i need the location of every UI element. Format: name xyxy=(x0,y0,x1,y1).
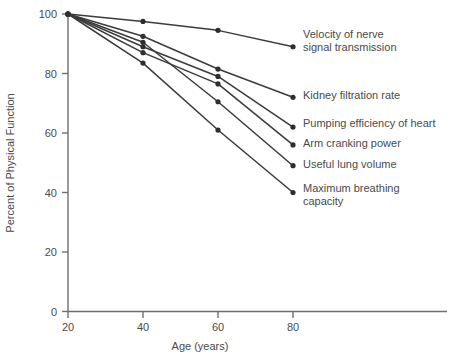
x-tick-label-60: 60 xyxy=(212,321,224,333)
data-point-velocity-of-nerve-signal-transmission-40 xyxy=(140,19,145,24)
x-tick-label-40: 40 xyxy=(137,321,149,333)
series-label-velocity-of-nerve-signal-transmission-line-1: Velocity of nerve xyxy=(303,28,384,40)
data-point-kidney-filtration-rate-40 xyxy=(140,34,145,39)
x-tick-label-80: 80 xyxy=(287,321,299,333)
series-label-kidney-filtration-rate: Kidney filtration rate xyxy=(303,89,400,101)
y-tick-label-40: 40 xyxy=(45,187,57,199)
x-tick-label-20: 20 xyxy=(62,321,74,333)
data-point-maximum-breathing-capacity-80 xyxy=(290,190,295,195)
data-point-kidney-filtration-rate-80 xyxy=(290,95,295,100)
y-axis-title: Percent of Physical Function xyxy=(4,93,16,232)
series-kidney-filtration-rate xyxy=(65,11,295,100)
data-point-useful-lung-volume-40 xyxy=(140,40,145,45)
series-maximum-breathing-capacity xyxy=(65,11,295,195)
series-label-maximum-breathing-capacity-line-1: Maximum breathing xyxy=(303,182,400,194)
series-line-maximum-breathing-capacity xyxy=(68,14,293,193)
chart-container: 100 80 60 40 20 0 20 40 60 80 Age (years… xyxy=(0,0,454,356)
data-point-kidney-filtration-rate-60 xyxy=(215,66,220,71)
data-point-maximum-breathing-capacity-20 xyxy=(65,11,70,16)
y-tick-label-0: 0 xyxy=(51,306,57,318)
data-point-useful-lung-volume-60 xyxy=(215,99,220,104)
series-label-velocity-of-nerve-signal-transmission-line-2: signal transmission xyxy=(303,41,397,53)
data-point-maximum-breathing-capacity-60 xyxy=(215,127,220,132)
series-label-arm-cranking-power: Arm cranking power xyxy=(303,137,401,149)
series-labels: Velocity of nerve signal transmission Ki… xyxy=(303,28,435,207)
series-layer xyxy=(65,11,295,195)
data-point-arm-cranking-power-80 xyxy=(290,142,295,147)
data-point-maximum-breathing-capacity-40 xyxy=(140,60,145,65)
data-point-useful-lung-volume-80 xyxy=(290,163,295,168)
series-line-arm-cranking-power xyxy=(68,14,293,145)
series-label-maximum-breathing-capacity-line-2: capacity xyxy=(303,195,344,207)
x-axis-title: Age (years) xyxy=(172,340,229,352)
data-point-pumping-efficiency-of-heart-80 xyxy=(290,124,295,129)
y-tick-label-60: 60 xyxy=(45,127,57,139)
line-chart: 100 80 60 40 20 0 20 40 60 80 Age (years… xyxy=(0,0,454,356)
y-axis-ticks xyxy=(62,14,68,312)
x-axis-ticks xyxy=(68,312,293,319)
data-point-velocity-of-nerve-signal-transmission-80 xyxy=(290,44,295,49)
data-point-pumping-efficiency-of-heart-60 xyxy=(215,74,220,79)
data-point-arm-cranking-power-40 xyxy=(140,50,145,55)
y-tick-label-80: 80 xyxy=(45,68,57,80)
series-line-velocity-of-nerve-signal-transmission xyxy=(68,14,293,47)
series-label-useful-lung-volume: Useful lung volume xyxy=(303,158,397,170)
series-label-pumping-efficiency-of-heart: Pumping efficiency of heart xyxy=(303,117,435,129)
series-arm-cranking-power xyxy=(65,11,295,147)
data-point-velocity-of-nerve-signal-transmission-60 xyxy=(215,28,220,33)
y-tick-label-100: 100 xyxy=(39,8,57,20)
y-tick-label-20: 20 xyxy=(45,246,57,258)
data-point-pumping-efficiency-of-heart-40 xyxy=(140,44,145,49)
series-pumping-efficiency-of-heart xyxy=(65,11,295,129)
data-point-arm-cranking-power-60 xyxy=(215,81,220,86)
